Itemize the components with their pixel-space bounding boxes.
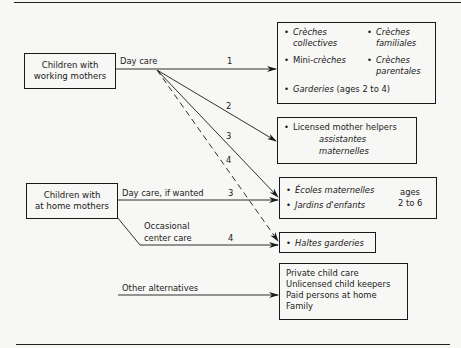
path-number-3-home: 3 [228, 188, 233, 198]
item-mini-creches: Mini-crèches [293, 55, 346, 66]
alt-private-child-care: Private child care [286, 268, 407, 279]
label-occasional-1: Occasional [144, 221, 190, 231]
item-creches-collectives: Crèchescollectives [293, 27, 337, 48]
path-number-2: 2 [226, 101, 231, 111]
item-maternelles: maternelles [319, 146, 369, 156]
item-ecoles-maternelles: Écoles maternelles [295, 185, 374, 196]
box-ecoles: Écoles maternelles Jardins d'enfants age… [279, 177, 437, 219]
source-working-mothers: Children with working mothers [24, 53, 116, 89]
box-licensed-mother-helpers: Licensed mother helpers assistantes mate… [277, 117, 417, 164]
item-garderies: Garderies (ages 2 to 4) [293, 84, 390, 95]
item-creches-familiales: Crèchesfamiliales [376, 27, 416, 48]
label-occasional-2: center care [144, 233, 192, 243]
source-home-line2: at home mothers [27, 201, 117, 212]
source-home-mothers: Children with at home mothers [26, 183, 118, 219]
item-assistantes: assistantes [319, 134, 366, 144]
alt-unlicensed-child-keepers: Unlicensed child keepers [286, 279, 407, 290]
box-creches: Crèchescollectives Crèchesfamiliales Min… [277, 22, 436, 104]
box-haltes-garderies: Haltes garderies [279, 232, 376, 253]
ages-label-1: ages [400, 187, 420, 197]
label-day-care-if-wanted: Day care, if wanted [122, 188, 204, 198]
path-number-4-home: 4 [228, 233, 233, 243]
source-working-line2: working mothers [25, 71, 115, 82]
path-number-1: 1 [227, 56, 232, 66]
item-licensed-mother-helpers: Licensed mother helpers [293, 122, 397, 133]
item-haltes-garderies: Haltes garderies [295, 238, 364, 249]
label-other-alternatives: Other alternatives [122, 283, 198, 293]
item-creches-parentales: Crèchesparentales [376, 55, 421, 76]
path-number-4-working: 4 [226, 155, 231, 165]
source-working-line1: Children with [25, 60, 115, 71]
label-day-care: Day care [120, 56, 157, 66]
box-other-alternatives: Private child care Unlicensed child keep… [279, 263, 408, 320]
item-jardins-denfants: Jardins d'enfants [295, 200, 365, 211]
path-number-3-working: 3 [226, 131, 231, 141]
alt-paid-persons-at-home: Paid persons at home [286, 290, 407, 301]
source-home-line1: Children with [27, 190, 117, 201]
ages-label-2: 2 to 6 [398, 198, 422, 208]
alt-family: Family [286, 301, 407, 312]
